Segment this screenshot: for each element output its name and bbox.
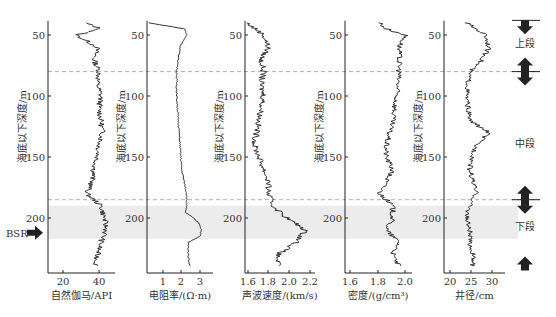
zone-arrow-icon xyxy=(517,58,533,72)
y-axis-label: 海底以下深度/m xyxy=(412,90,424,163)
bsr-label: BSR xyxy=(6,228,28,239)
x-axis-label: 密度/(g/cm³) xyxy=(348,289,408,301)
y-tick-label: 50 xyxy=(131,30,144,41)
x-tick-label: 40 xyxy=(93,276,106,287)
panel-1: 501001502002040自然伽马/API海底以下深度/m xyxy=(16,21,115,301)
y-tick-label: 100 xyxy=(323,91,342,102)
x-axis-label: 自然伽马/API xyxy=(51,289,112,301)
y-tick-label: 50 xyxy=(428,30,441,41)
x-tick-label: 1.6 xyxy=(240,276,256,287)
x-tick-label: 20 xyxy=(444,276,457,287)
shaded-band xyxy=(48,206,518,239)
y-tick-label: 150 xyxy=(422,152,441,163)
x-tick-label: 1.6 xyxy=(342,276,358,287)
y-tick-label: 200 xyxy=(125,213,144,224)
x-tick-label: 2.2 xyxy=(302,276,318,287)
y-tick-label: 200 xyxy=(422,213,441,224)
x-axis-label: 井径/cm xyxy=(455,289,494,301)
y-axis-label: 海底以下深度/m xyxy=(213,90,225,163)
x-tick-label: 2.0 xyxy=(397,276,413,287)
x-tick-label: 1.8 xyxy=(370,276,386,287)
y-tick-label: 200 xyxy=(26,213,45,224)
zone-arrow-icon xyxy=(517,256,533,270)
y-tick-label: 200 xyxy=(323,213,342,224)
y-axis-label: 海底以下深度/m xyxy=(115,90,127,163)
y-tick-label: 50 xyxy=(329,30,342,41)
y-tick-label: 100 xyxy=(125,91,144,102)
y-tick-label: 150 xyxy=(26,152,45,163)
x-tick-label: 3 xyxy=(197,276,203,287)
y-tick-label: 100 xyxy=(223,91,242,102)
y-tick-label: 100 xyxy=(26,91,45,102)
x-tick-label: 2 xyxy=(178,276,184,287)
well-log-chart: 501001502002040自然伽马/API海底以下深度/m501001502… xyxy=(0,0,556,317)
x-tick-label: 2.0 xyxy=(281,276,297,287)
bsr-arrow-icon xyxy=(27,226,43,240)
y-tick-label: 150 xyxy=(223,152,242,163)
x-tick-label: 1 xyxy=(160,276,166,287)
panel-3: 501001502001.61.82.02.2声波速度/(km/s)海底以下深度… xyxy=(213,21,318,301)
zone-label: 下段 xyxy=(515,220,535,232)
x-tick-label: 30 xyxy=(486,276,499,287)
zone-label: 上段 xyxy=(515,37,535,49)
x-tick-label: 1.8 xyxy=(260,276,276,287)
x-tick-label: 25 xyxy=(465,276,478,287)
y-tick-label: 150 xyxy=(125,152,144,163)
x-axis-label: 声波速度/(km/s) xyxy=(242,289,317,301)
zone-arrow-icon xyxy=(517,200,533,214)
zone-arrow-icon xyxy=(517,20,533,34)
y-axis-label: 海底以下深度/m xyxy=(16,90,28,163)
panel-4: 501001502001.61.82.0密度/(g/cm³)海底以下深度/m xyxy=(313,21,413,301)
y-tick-label: 150 xyxy=(323,152,342,163)
y-tick-label: 100 xyxy=(422,91,441,102)
y-tick-label: 50 xyxy=(229,30,242,41)
y-tick-label: 200 xyxy=(223,213,242,224)
y-axis-label: 海底以下深度/m xyxy=(313,90,325,163)
y-tick-label: 50 xyxy=(32,30,45,41)
zone-arrow-icon xyxy=(517,186,533,200)
zone-label: 中段 xyxy=(515,137,535,149)
x-tick-label: 20 xyxy=(57,276,70,287)
panel-2: 50100150200123电阻率/(Ω·m)海底以下深度/m xyxy=(115,21,213,301)
zone-arrow-icon xyxy=(517,72,533,86)
x-axis-label: 电阻率/(Ω·m) xyxy=(149,289,211,301)
panel-5: 50100150200202530井径/cm海底以下深度/m xyxy=(412,21,505,301)
